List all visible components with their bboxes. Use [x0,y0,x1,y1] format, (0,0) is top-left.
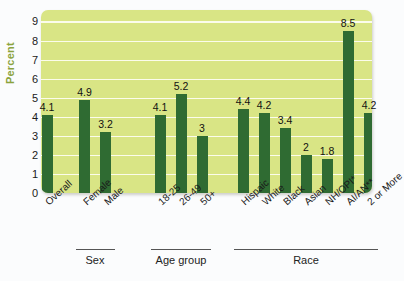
bar-overall [42,115,53,193]
value-label-nh-opi: 1.8 [312,146,342,157]
gridline [41,41,372,43]
group-rule-age-group [151,249,211,250]
y-tick-6: 6 [32,74,38,84]
plot-area [41,10,372,193]
y-tick-8: 8 [32,36,38,46]
gridline [41,21,372,23]
y-tick-1: 1 [32,169,38,179]
value-label-2-or-more: 4.2 [354,100,384,111]
group-label-age-group: Age group [151,254,211,266]
value-label-female: 4.9 [70,87,100,98]
gridline [41,79,372,81]
bar-female [79,100,90,193]
value-label-male: 3.2 [91,119,121,130]
group-label-race: Race [234,254,378,266]
gridline [41,60,372,62]
group-rule-race [234,249,378,250]
bar-18-25 [155,115,166,193]
gridline [41,98,372,100]
value-label-ai-an: 8.5 [333,18,363,29]
value-label-white: 4.2 [249,100,279,111]
bar-ai-an [343,31,354,193]
bar-hispaic [238,109,249,193]
group-rule-sex [76,249,115,250]
value-label-overall: 4.1 [32,102,62,113]
y-axis-title: Percent [4,14,16,84]
y-tick-9: 9 [32,16,38,26]
value-label-black: 3.4 [270,115,300,126]
y-tick-0: 0 [32,188,38,198]
bar-26-49 [176,94,187,193]
group-label-sex: Sex [76,254,115,266]
y-tick-7: 7 [32,55,38,65]
value-label-50: 3 [187,123,217,134]
y-tick-4: 4 [32,112,38,122]
value-label-18-25: 4.1 [145,102,175,113]
y-tick-2: 2 [32,150,38,160]
y-axis-tick-labels: 0123456789 [22,0,38,281]
y-tick-3: 3 [32,131,38,141]
value-label-26-49: 5.2 [166,81,196,92]
